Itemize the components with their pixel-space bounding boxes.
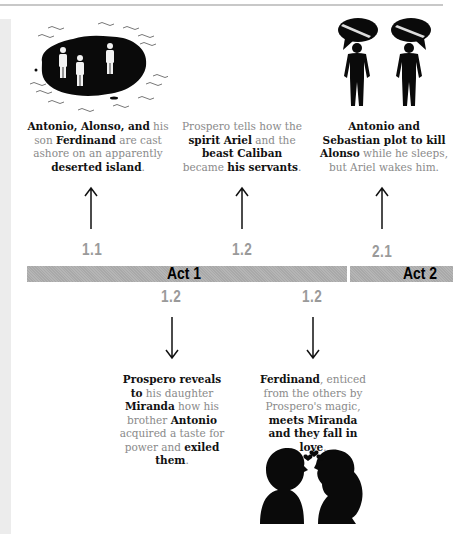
bold-text: beast Caliban [202,147,282,159]
event-description: Ferdinand, enticed from the others by Pr… [256,373,370,454]
plotters-with-knives-illustration [333,16,448,116]
event-description: Antonio, Alonso, and his son Ferdinand a… [24,120,172,174]
bold-text: spirit Ariel [188,134,252,146]
bold-text: Miranda [125,400,175,412]
text: became [183,161,228,173]
side-margin-strip [0,19,11,534]
bold-text: deserted island [51,161,141,173]
bold-text: Ferdinand [56,134,116,146]
text: his daughter [142,387,213,399]
bold-text: Antonio, Alonso, and [27,120,149,132]
scene-number: 1.2 [161,288,181,306]
up-arrow-icon [375,186,389,230]
scene-number: 2.1 [372,243,392,261]
up-arrow-icon [235,186,249,230]
act-label: Act 2 [403,266,437,282]
bold-text: his servants [227,161,298,173]
bold-text: Antonio [171,414,217,426]
text: . [298,161,301,173]
down-arrow-icon [306,316,320,360]
up-arrow-icon [84,186,98,230]
scene-number: 1.2 [302,288,322,306]
island-castaways-illustration [28,14,168,114]
scene-number: 1.1 [82,241,102,259]
scene-number: 1.2 [232,241,252,259]
event-description: Antonio and Sebastian plot to kill Alons… [318,120,450,174]
top-rule [0,4,443,6]
couple-in-love-illustration [256,444,376,526]
text: . [185,454,188,466]
text: Prospero tells how the [182,120,302,132]
event-description: Prospero reveals to his daughter Miranda… [118,373,226,468]
event-description: Prospero tells how the spirit Ariel and … [180,120,304,174]
act-2-bar [350,266,453,282]
act-label: Act 1 [167,266,201,282]
text: . [142,161,145,173]
down-arrow-icon [165,316,179,360]
text: and the [252,134,296,146]
bold-text: Ferdinand [260,373,320,385]
